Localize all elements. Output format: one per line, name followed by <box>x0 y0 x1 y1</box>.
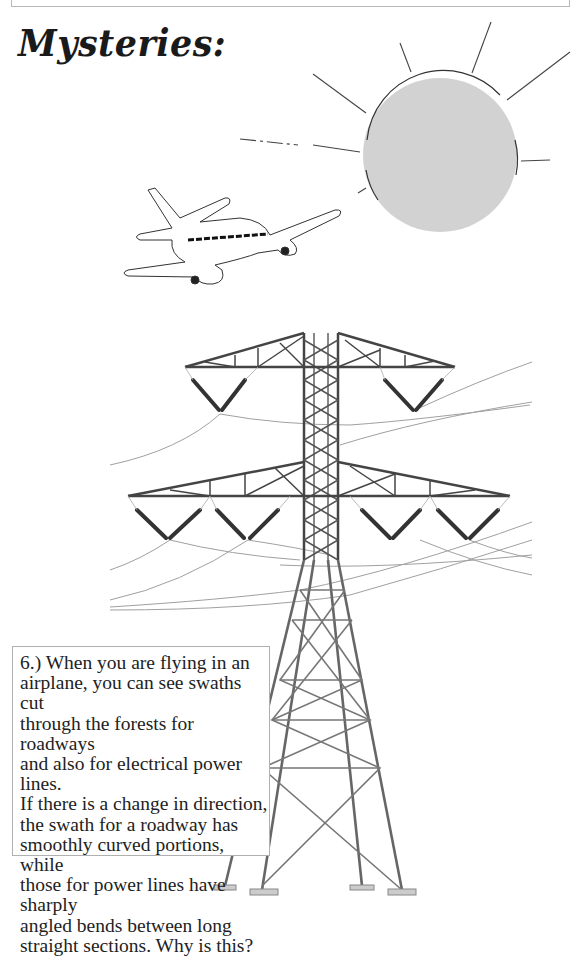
airplane-icon <box>124 188 341 284</box>
question-box: 6.) When you are flying in an airplane, … <box>12 646 270 856</box>
sun-icon <box>240 22 570 232</box>
question-text: 6.) When you are flying in an airplane, … <box>20 653 269 956</box>
power-lines <box>110 362 532 610</box>
